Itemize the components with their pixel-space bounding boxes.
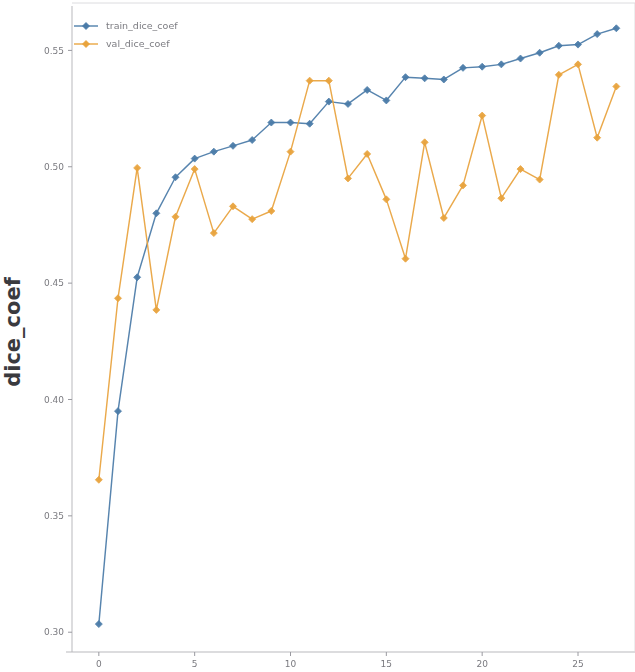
series-val_dice_coef (95, 61, 620, 483)
x-tick-label: 25 (572, 659, 583, 669)
data-point (287, 119, 294, 126)
data-point (575, 61, 582, 68)
legend-entry-train_dice_coef[interactable]: train_dice_coef (74, 20, 178, 31)
data-point (555, 42, 562, 49)
legend-swatch-marker (83, 41, 90, 48)
data-point (134, 164, 141, 171)
data-point (613, 25, 620, 32)
chart-figure: 0.300.350.400.450.500.550510152025 train… (0, 0, 635, 672)
x-tick-label: 10 (285, 659, 297, 669)
data-point (613, 83, 620, 90)
data-point (517, 55, 524, 62)
data-point (440, 76, 447, 83)
data-point (402, 255, 409, 262)
legend-label: val_dice_coef (106, 38, 170, 49)
y-axis-title: dice_coef (1, 276, 25, 387)
y-tick-label: 0.35 (44, 511, 64, 521)
data-point (421, 75, 428, 82)
data-point (172, 213, 179, 220)
data-point (575, 41, 582, 48)
y-tick-label: 0.40 (44, 395, 64, 405)
legend-entry-val_dice_coef[interactable]: val_dice_coef (74, 38, 170, 49)
data-point (287, 148, 294, 155)
chart-legend[interactable]: train_dice_coefval_dice_coef (74, 20, 178, 49)
data-point (191, 166, 198, 173)
data-point (536, 49, 543, 56)
data-point (230, 142, 237, 149)
chart-series (95, 25, 620, 628)
data-point (115, 408, 122, 415)
data-point (306, 77, 313, 84)
data-point (115, 295, 122, 302)
data-point (440, 214, 447, 221)
data-point (460, 64, 467, 71)
x-tick-label: 15 (381, 659, 392, 669)
data-point (268, 207, 275, 214)
y-tick-label: 0.45 (44, 278, 64, 288)
data-point (421, 139, 428, 146)
data-point (555, 71, 562, 78)
data-point (594, 31, 601, 38)
data-point (498, 61, 505, 68)
x-tick-label: 5 (192, 659, 198, 669)
line-chart: 0.300.350.400.450.500.550510152025 train… (0, 0, 635, 672)
legend-label: train_dice_coef (106, 20, 178, 31)
data-point (460, 182, 467, 189)
data-point (153, 210, 160, 217)
data-point (95, 476, 102, 483)
x-tick-label: 0 (96, 659, 102, 669)
data-point (479, 63, 486, 70)
series-line-train_dice_coef (99, 28, 617, 624)
data-point (536, 176, 543, 183)
series-line-val_dice_coef (99, 64, 617, 479)
legend-swatch-marker (83, 23, 90, 30)
y-tick-label: 0.50 (44, 162, 64, 172)
data-point (383, 196, 390, 203)
x-tick-label: 20 (476, 659, 488, 669)
data-point (594, 134, 601, 141)
y-axis-label: dice_coef (1, 276, 25, 387)
data-point (325, 77, 332, 84)
y-tick-label: 0.55 (44, 46, 64, 56)
y-tick-label: 0.30 (44, 627, 64, 637)
data-point (134, 274, 141, 281)
data-point (95, 621, 102, 628)
data-point (210, 148, 217, 155)
data-point (479, 112, 486, 119)
series-train_dice_coef (95, 25, 620, 628)
data-point (153, 306, 160, 313)
